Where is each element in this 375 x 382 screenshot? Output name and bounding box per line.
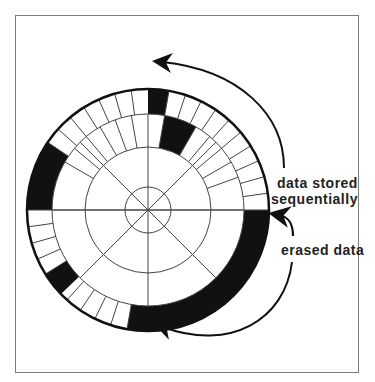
sector-divider [222, 132, 241, 148]
sector-divider [28, 223, 53, 226]
sector-divider [190, 101, 201, 123]
sector-divider [80, 290, 94, 311]
sector-divider-inner [131, 115, 137, 147]
stored-sequentially-label: data stored sequentially [271, 175, 358, 207]
stored-label-line2: sequentially [271, 191, 358, 207]
sector-divider [70, 117, 86, 136]
sector-divider [58, 129, 77, 146]
sector-divider [32, 236, 56, 243]
sector-divider [178, 95, 186, 119]
sector-divider-inner [207, 177, 238, 188]
sector-divider [84, 107, 97, 128]
filled-sector-outer [45, 261, 79, 294]
sector-divider [131, 90, 134, 115]
sector-divider [111, 301, 119, 325]
sector-divider-inner [100, 127, 117, 156]
sector-divider [99, 99, 109, 122]
sector-divider-inner [188, 136, 209, 161]
sector-divider-inner [203, 162, 232, 179]
sector-divider [212, 120, 229, 139]
spoke-line [148, 210, 216, 278]
sector-divider-inner [65, 162, 94, 179]
sector-divider [37, 249, 60, 259]
sector-divider [236, 161, 259, 171]
sector-divider [115, 94, 122, 118]
sector-divider-inner [115, 120, 126, 151]
spoke-line [80, 210, 148, 278]
erased-data-arrow-icon [279, 215, 293, 236]
sector-divider-inner [86, 136, 107, 161]
sector-divider-inner [74, 148, 99, 169]
spoke-line [148, 142, 216, 210]
spoke-line [80, 142, 148, 210]
sector-divider [202, 110, 216, 131]
sector-divider [240, 177, 264, 184]
sector-divider [243, 193, 268, 196]
erased-data-label: erased data [281, 242, 364, 258]
stored-label-line1: data stored [271, 175, 358, 191]
sector-divider-inner [196, 148, 221, 169]
sector-divider [229, 146, 250, 159]
sector-divider [95, 296, 106, 318]
